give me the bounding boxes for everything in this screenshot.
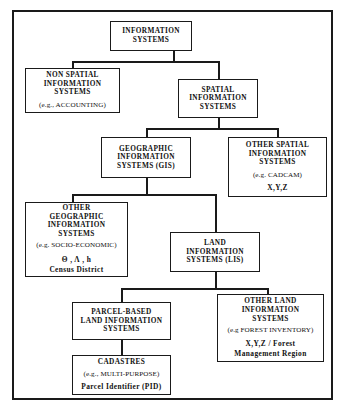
node-other-geographic-information-systems[interactable]: OTHER GEOGRAPHIC INFORMATION SYSTEMS (e.… bbox=[25, 202, 128, 277]
diagram-canvas: INFORMATION SYSTEMS NON SPATIAL INFORMAT… bbox=[0, 0, 344, 415]
node-example: (e.g., ACCOUNTING) bbox=[39, 101, 106, 110]
edge-gis-stem bbox=[146, 178, 148, 195]
node-title-line: SYSTEMS bbox=[54, 88, 91, 97]
edge-level3-bus bbox=[72, 194, 217, 196]
edge-to-spatial bbox=[218, 61, 220, 79]
node-example: (e.g., MULTI-PURPOSE) bbox=[84, 370, 160, 379]
node-example: (e.g. SOCIO-ECONOMIC) bbox=[36, 241, 116, 250]
edge-level1-bus bbox=[72, 61, 220, 63]
node-land-information-systems[interactable]: LAND INFORMATION SYSTEMS (LIS) bbox=[170, 232, 260, 272]
node-title-line: SYSTEMS bbox=[200, 103, 237, 112]
node-attribute: Parcel Identifier (PID) bbox=[81, 382, 161, 392]
edge-to-parcel-based bbox=[121, 288, 123, 302]
edge-level2-bus bbox=[146, 128, 278, 130]
node-title-line: SYSTEMS bbox=[58, 230, 95, 239]
node-title-line: SYSTEMS bbox=[133, 36, 170, 45]
node-title-line: SYSTEMS bbox=[252, 315, 289, 324]
edge-to-lis bbox=[215, 194, 217, 232]
edge-to-other-spatial bbox=[277, 128, 279, 137]
node-title-line: SYSTEMS bbox=[103, 325, 140, 334]
node-other-spatial-information-systems[interactable]: OTHER SPATIAL INFORMATION SYSTEMS (e.g. … bbox=[228, 137, 327, 197]
edge-to-gis bbox=[146, 128, 148, 137]
node-parcel-based-land-information-systems[interactable]: PARCEL-BASED LAND INFORMATION SYSTEMS bbox=[72, 302, 171, 340]
node-title-line: SYSTEMS (LIS) bbox=[186, 256, 243, 265]
node-attribute: Management Region bbox=[234, 349, 306, 359]
node-example: (e.g FOREST INVENTORY) bbox=[227, 326, 313, 335]
node-other-land-information-systems[interactable]: OTHER LAND INFORMATION SYSTEMS (e.g FORE… bbox=[217, 294, 324, 362]
node-spatial-information-systems[interactable]: SPATIAL INFORMATION SYSTEMS bbox=[178, 79, 258, 118]
node-cadastres[interactable]: CADASTRES (e.g., MULTI-PURPOSE) Parcel I… bbox=[72, 355, 171, 395]
node-example: (e.g. CADCAM) bbox=[253, 171, 302, 180]
edge-level4-bus bbox=[121, 288, 268, 290]
edge-to-other-geographic bbox=[72, 194, 74, 202]
node-attribute: X,Y,Z bbox=[267, 183, 288, 193]
edge-to-cadastres bbox=[121, 340, 123, 355]
node-attribute: Census District bbox=[49, 265, 103, 275]
edge-lis-stem bbox=[215, 272, 217, 289]
node-title-line: SYSTEMS bbox=[259, 158, 296, 167]
node-attribute: Θ , Λ , h bbox=[62, 255, 91, 265]
node-attribute: X,Y,Z / Forest bbox=[246, 339, 296, 349]
node-non-spatial-information-systems[interactable]: NON SPATIAL INFORMATION SYSTEMS (e.g., A… bbox=[25, 68, 120, 113]
node-geographic-information-systems[interactable]: GEOGRAPHIC INFORMATION SYSTEMS (GIS) bbox=[101, 137, 191, 178]
node-information-systems[interactable]: INFORMATION SYSTEMS bbox=[110, 21, 192, 51]
node-title-line: CADASTRES bbox=[98, 358, 145, 367]
node-title-line: SYSTEMS (GIS) bbox=[117, 162, 175, 171]
